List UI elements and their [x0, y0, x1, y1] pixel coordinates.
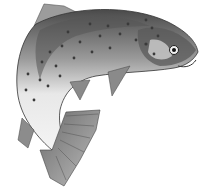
pupil	[172, 48, 176, 52]
trout-illustration	[0, 0, 202, 190]
pelvic-fin	[70, 80, 90, 100]
